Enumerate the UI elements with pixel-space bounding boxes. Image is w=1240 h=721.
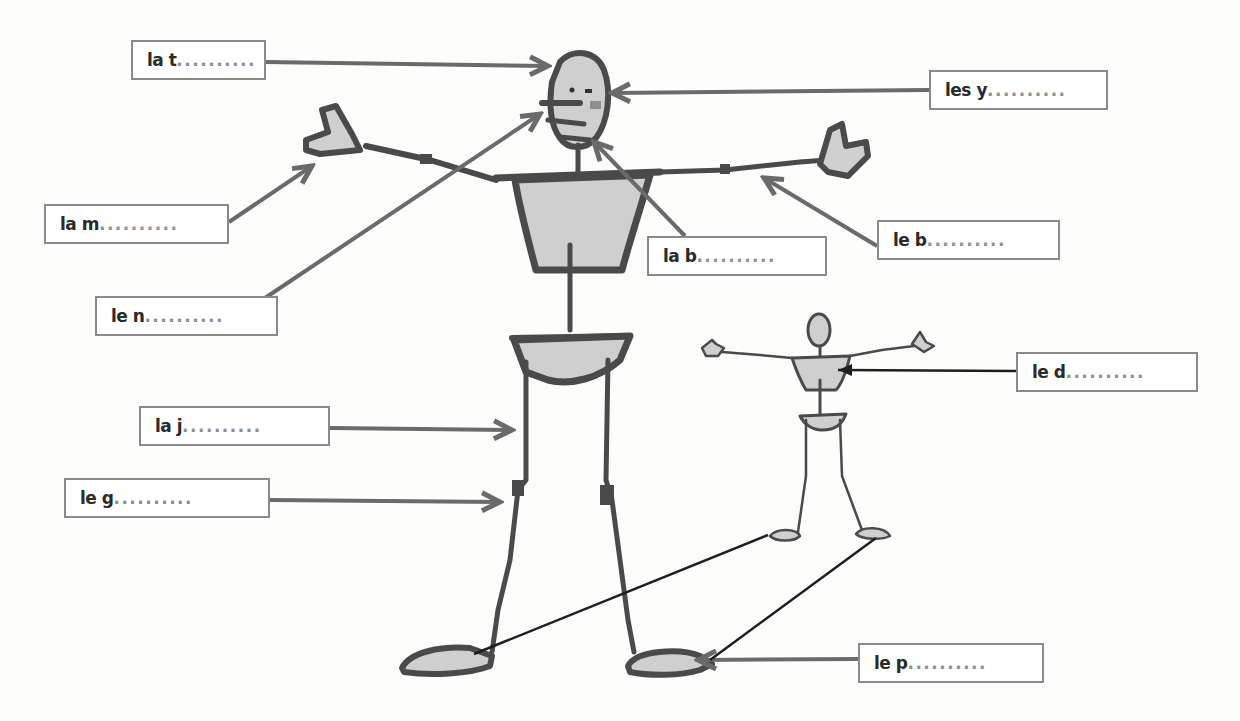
arrow-eyes xyxy=(612,90,929,93)
label-box-back[interactable]: le d.......... xyxy=(1016,352,1198,392)
label-prefix: la j xyxy=(155,416,182,436)
large-figure xyxy=(306,53,868,675)
arrow-knee xyxy=(270,500,500,502)
label-box-head[interactable]: la t.......... xyxy=(131,40,266,80)
label-box-leg[interactable]: la j.......... xyxy=(139,406,330,446)
head-shape xyxy=(542,53,608,147)
label-box-arm[interactable]: le b.......... xyxy=(877,220,1060,260)
label-prefix: les y xyxy=(945,80,987,100)
label-box-nose[interactable]: le n.......... xyxy=(95,296,278,336)
torso-shape xyxy=(515,175,650,270)
label-prefix: le b xyxy=(893,230,926,250)
answer-blank[interactable]: .......... xyxy=(696,246,776,266)
label-box-knee[interactable]: le g.......... xyxy=(64,478,270,518)
right-foot-shape xyxy=(628,651,712,674)
label-box-mouth[interactable]: la b.......... xyxy=(647,236,827,276)
label-box-foot[interactable]: le p.......... xyxy=(858,643,1044,683)
answer-blank[interactable]: .......... xyxy=(182,416,262,436)
label-prefix: le n xyxy=(111,306,144,326)
label-prefix: le p xyxy=(874,653,907,673)
arrow-back xyxy=(838,370,1016,371)
label-prefix: le d xyxy=(1032,362,1065,382)
label-prefix: le g xyxy=(80,488,113,508)
label-prefix: la t xyxy=(147,50,176,70)
answer-blank[interactable]: .......... xyxy=(987,80,1067,100)
arrow-head xyxy=(266,62,548,66)
label-box-eyes[interactable]: les y.......... xyxy=(929,70,1108,110)
small-figure xyxy=(702,314,934,541)
label-prefix: la b xyxy=(663,246,696,266)
answer-blank[interactable]: .......... xyxy=(113,488,193,508)
arrow-hand xyxy=(229,166,312,222)
left-hand-shape xyxy=(306,106,360,154)
right-hand-shape xyxy=(820,124,868,176)
pelvis-shape xyxy=(514,336,630,382)
label-prefix: la m xyxy=(60,214,99,234)
answer-blank[interactable]: .......... xyxy=(926,230,1006,250)
answer-blank[interactable]: .......... xyxy=(176,50,256,70)
answer-blank[interactable]: .......... xyxy=(1065,362,1145,382)
answer-blank[interactable]: .......... xyxy=(99,214,179,234)
arrow-foot xyxy=(698,659,858,660)
connector-right-foot xyxy=(710,538,876,660)
arrow-leg xyxy=(330,428,512,430)
connector-lines xyxy=(474,370,1016,660)
label-box-hand[interactable]: la m.......... xyxy=(44,204,229,244)
answer-blank[interactable]: .......... xyxy=(144,306,224,326)
answer-blank[interactable]: .......... xyxy=(907,653,987,673)
